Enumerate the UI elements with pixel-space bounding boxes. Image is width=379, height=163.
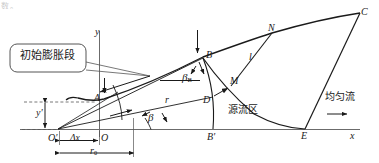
callout-leader bbox=[86, 62, 150, 76]
y-prime-dimension-label: y' bbox=[36, 108, 43, 118]
r0-label: r0 bbox=[90, 146, 97, 156]
uniform-flow-label: 均匀流 bbox=[325, 92, 355, 102]
x-axis-label: x bbox=[350, 131, 354, 141]
r0-subscript: 0 bbox=[94, 149, 97, 156]
point-A-label: A bbox=[94, 93, 100, 103]
point-B-prime-label: B' bbox=[207, 132, 215, 142]
expansion-wall-curve bbox=[78, 13, 360, 100]
length-l-label: l bbox=[249, 52, 252, 62]
point-B-label: B bbox=[206, 50, 212, 60]
beta-angle-arc bbox=[142, 112, 167, 130]
wall-left-hook bbox=[66, 97, 78, 100]
point-E-label: E bbox=[301, 131, 307, 141]
radius-r-label: r bbox=[165, 95, 169, 105]
angle-beta-B-label: βB bbox=[182, 72, 192, 84]
point-N-label: N bbox=[268, 23, 275, 33]
origin-O-label: O bbox=[101, 133, 108, 143]
point-D-label: D bbox=[203, 95, 210, 105]
figure-canvas: 数。 bbox=[0, 0, 379, 163]
beta-B-subscript: B bbox=[187, 76, 192, 83]
callout-arrow-into-wall bbox=[100, 76, 150, 92]
point-C-label: C bbox=[361, 7, 368, 17]
angle-beta-label: β bbox=[148, 112, 153, 123]
arrow-to-m bbox=[214, 88, 228, 96]
callout-label: 初始膨胀段 bbox=[20, 50, 75, 61]
origin-O-prime-label: O' bbox=[48, 133, 57, 143]
y-axis-label: y bbox=[95, 27, 99, 37]
point-M-label: M bbox=[230, 76, 238, 86]
delta-x-label: Δx bbox=[70, 134, 80, 144]
line-c-to-e bbox=[305, 13, 360, 129]
source-region-label: 源流区 bbox=[228, 105, 258, 115]
